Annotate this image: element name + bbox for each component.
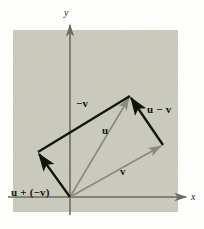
vector-label-u-minus-v: u − v	[147, 104, 171, 115]
y-axis-label: y	[64, 8, 68, 18]
vector-label-u: u	[102, 125, 108, 136]
vector-label-u-plus-neg-v: u + (−v)	[11, 187, 50, 198]
vector-diagram-figure: y x −v u − v u v u + (−v)	[0, 0, 204, 229]
vector-label-neg-v: −v	[76, 98, 88, 109]
diagram-panel-grain	[13, 30, 178, 212]
vector-label-v: v	[120, 166, 126, 177]
x-axis-label: x	[191, 192, 195, 202]
